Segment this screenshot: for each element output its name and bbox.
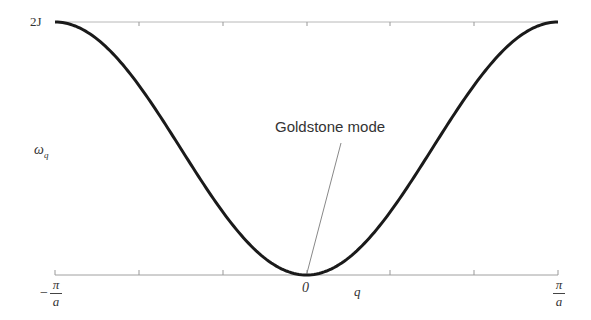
x-tick-zero: 0 (302, 280, 309, 296)
x-left-sign: − (40, 285, 48, 301)
x-axis-label: q (354, 284, 361, 300)
y-tick-2J: 2J (30, 14, 42, 30)
frac-num: π (53, 277, 60, 292)
x-tick-pi-over-a: π a (553, 278, 565, 309)
y-axis-subscript: q (44, 150, 49, 160)
frac-num: π (556, 277, 563, 292)
dispersion-curve (55, 22, 558, 275)
y-axis-symbol: ω (34, 142, 44, 157)
x-tick-neg-pi-over-a: π a (50, 278, 62, 309)
y-axis-label: ωq (34, 142, 48, 160)
chart-canvas (0, 0, 591, 320)
top-ticks (139, 22, 474, 26)
frac-den: a (53, 294, 60, 309)
dispersion-chart: 2J ωq − π a 0 q π a Goldstone mode (0, 0, 591, 320)
frac-den: a (556, 294, 563, 309)
goldstone-annotation: Goldstone mode (275, 118, 385, 135)
annotation-pointer (307, 143, 341, 273)
